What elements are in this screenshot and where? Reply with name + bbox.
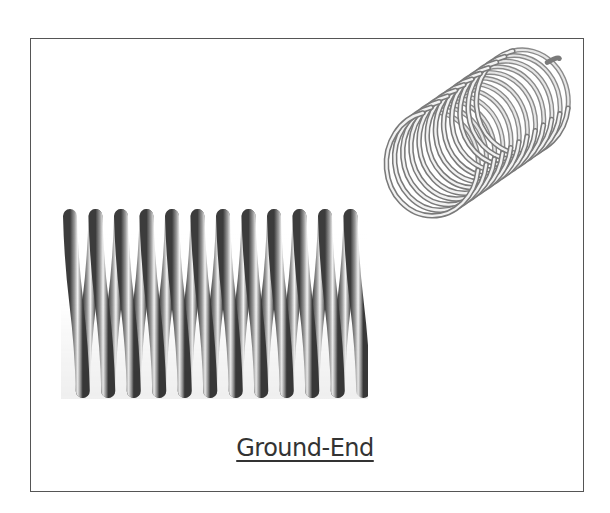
ground-end-spring-side-view bbox=[55, 208, 376, 399]
shading-overlay bbox=[55, 208, 376, 399]
ground-end-spring-isometric-view bbox=[386, 50, 568, 216]
coil-end-tail bbox=[547, 58, 559, 63]
figure-caption: Ground-End bbox=[0, 434, 610, 462]
